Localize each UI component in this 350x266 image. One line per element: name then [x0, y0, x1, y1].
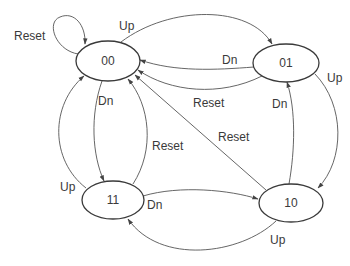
label-01-00-dn: Dn: [222, 53, 237, 67]
edge-11-00-up: [59, 76, 86, 188]
label-11-00-reset: Reset: [152, 139, 184, 153]
label-00-11-dn: Dn: [98, 94, 113, 108]
edge-11-00-reset: [128, 79, 147, 184]
state-label: 11: [107, 193, 120, 207]
label-10-11-up: Up: [270, 233, 286, 247]
label-10-00-reset: Reset: [218, 130, 250, 144]
label-10-01-dn: Dn: [272, 97, 287, 111]
label-11-10-dn: Dn: [147, 198, 162, 212]
state-01: 01: [253, 44, 319, 82]
state-label: 01: [279, 56, 293, 70]
state-00: 00: [76, 41, 140, 81]
edge-10-11-up: [128, 219, 276, 250]
state-10: 10: [259, 184, 323, 222]
state-diagram: 00 01 11 10 Reset Up Dn Reset Up Dn Rese…: [0, 0, 350, 266]
edge-10-01-dn: [287, 82, 294, 184]
state-label: 00: [101, 54, 115, 68]
label-00-00-reset: Reset: [14, 29, 46, 43]
label-11-00-up: Up: [60, 180, 76, 194]
label-01-00-reset: Reset: [193, 96, 225, 110]
state-11: 11: [82, 181, 144, 219]
label-01-10-up: Up: [327, 71, 343, 85]
edge-01-10-up: [315, 74, 338, 188]
state-label: 10: [284, 196, 298, 210]
edge-01-00-reset: [138, 70, 262, 89]
edge-00-01-up: [121, 14, 272, 44]
label-00-01-up: Up: [119, 19, 135, 33]
edge-00-00-reset: [53, 16, 85, 54]
